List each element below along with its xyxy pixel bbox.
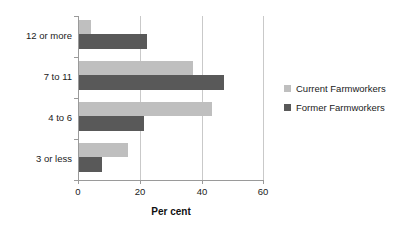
x-axis-tick-60	[263, 180, 264, 184]
legend-label-current: Current Farmworkers	[296, 83, 386, 94]
legend-label-former: Former Farmworkers	[296, 102, 385, 113]
x-tick-label-20: 20	[135, 186, 146, 197]
bar-chart: 12 or more 7 to 11 4 to 6 3 or less	[0, 0, 416, 233]
gridline-40	[202, 16, 203, 180]
chart-legend: Current Farmworkers Former Farmworkers	[284, 80, 412, 118]
x-axis-tick-20	[140, 180, 141, 184]
category-label-12-or-more: 12 or more	[0, 30, 72, 41]
x-tick-label-0: 0	[75, 186, 80, 197]
x-axis-line	[78, 180, 264, 181]
y-axis-tick-1	[74, 57, 78, 58]
category-label-3-or-less: 3 or less	[0, 153, 72, 164]
category-label-7-to-11: 7 to 11	[0, 71, 72, 82]
x-tick-label-40: 40	[197, 186, 208, 197]
bar-current-4-to-6	[79, 102, 212, 116]
y-axis-tick-3	[74, 139, 78, 140]
category-label-4-to-6: 4 to 6	[0, 112, 72, 123]
bar-former-12-or-more	[79, 34, 147, 49]
bar-former-3-or-less	[79, 157, 102, 172]
bar-former-7-to-11	[79, 75, 224, 90]
legend-item-former[interactable]: Former Farmworkers	[284, 99, 412, 115]
x-axis-tick-40	[202, 180, 203, 184]
plot-area	[78, 16, 264, 180]
category-axis-labels: 12 or more 7 to 11 4 to 6 3 or less	[0, 16, 72, 180]
bar-current-12-or-more	[79, 20, 91, 34]
x-tick-label-60: 60	[258, 186, 269, 197]
x-axis-title: Per cent	[78, 206, 264, 217]
x-axis-tick-0	[78, 180, 79, 184]
bar-current-3-or-less	[79, 143, 128, 157]
legend-swatch-current-icon	[284, 85, 291, 92]
legend-swatch-former-icon	[284, 104, 291, 111]
bar-former-4-to-6	[79, 116, 144, 131]
legend-item-current[interactable]: Current Farmworkers	[284, 80, 412, 96]
y-axis-tick-2	[74, 98, 78, 99]
gridline-60	[263, 16, 264, 180]
bar-current-7-to-11	[79, 61, 193, 75]
y-axis-tick-top	[74, 16, 78, 17]
